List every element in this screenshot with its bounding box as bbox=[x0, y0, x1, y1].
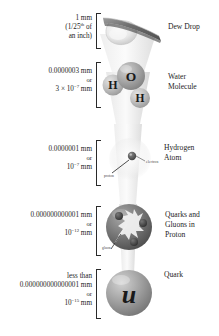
level-label-quark: Quark bbox=[164, 270, 183, 280]
size-annotation-quark: less than 0.000000000000001 mm or 10−15 … bbox=[0, 272, 92, 308]
size-annotation-quarks-gluons: 0.000000000001 mm or 10−12 mm bbox=[0, 211, 92, 238]
atom-symbol-o: O bbox=[126, 69, 137, 84]
size-line: 0.000000000000001 mm bbox=[0, 281, 92, 290]
size-annotation-water-molecule: 0.0000003 mm or 3 × 10−7 mm bbox=[4, 67, 92, 94]
quark-illustration: u bbox=[104, 268, 160, 320]
atom-symbol-h-left: H bbox=[108, 78, 118, 92]
label-line: Quarks and bbox=[165, 210, 200, 220]
size-line: an inch) bbox=[10, 32, 92, 41]
size-line: less than bbox=[0, 272, 92, 281]
water-molecule-illustration: H H O bbox=[101, 58, 163, 108]
size-line: 10−12 mm bbox=[0, 229, 92, 238]
size-line: 0.000000000001 mm bbox=[0, 211, 92, 220]
electron-callout-label: electron bbox=[146, 160, 158, 164]
label-line: Quark bbox=[164, 270, 183, 280]
callout-text: gluon bbox=[102, 246, 111, 250]
level-label-water-molecule: Water Molecule bbox=[168, 72, 197, 92]
label-line: Gluons in bbox=[165, 220, 200, 230]
dew-drop-illustration bbox=[101, 10, 165, 52]
label-line: Water bbox=[168, 72, 197, 82]
bracket-quark bbox=[96, 269, 101, 319]
level-label-dew-drop: Dew Drop bbox=[168, 22, 200, 32]
label-line: Hydrogen bbox=[164, 143, 194, 153]
level-label-quarks-gluons: Quarks and Gluons in Proton bbox=[165, 210, 200, 240]
size-annotation-dew-drop: 1 mm (1/25th of an inch) bbox=[10, 14, 92, 42]
size-line: (1/25th of bbox=[10, 23, 92, 32]
gluon-callout-label: gluon bbox=[102, 246, 111, 250]
size-line: 10−7 mm bbox=[6, 163, 92, 172]
label-line: Atom bbox=[164, 153, 194, 163]
label-line: Dew Drop bbox=[168, 22, 200, 32]
size-line: 0.0000003 mm bbox=[4, 67, 92, 76]
size-annotation-hydrogen-atom: 0.0000001 mm or 10−7 mm bbox=[6, 145, 92, 172]
proton-quarks-illustration bbox=[103, 203, 161, 257]
level-label-hydrogen-atom: Hydrogen Atom bbox=[164, 143, 194, 163]
size-line: 3 × 10−7 mm bbox=[4, 85, 92, 94]
bracket-quarks-gluons bbox=[96, 206, 101, 256]
label-line: Molecule bbox=[168, 82, 197, 92]
size-line: or bbox=[6, 154, 92, 162]
quark-flavor-glyph: u bbox=[122, 280, 136, 309]
scale-of-matter-diagram: 1 mm (1/25th of an inch) bbox=[0, 0, 219, 336]
proton-callout-label: proton bbox=[104, 174, 114, 178]
size-line: 0.0000001 mm bbox=[6, 145, 92, 154]
callout-text: proton bbox=[104, 174, 114, 178]
label-line: Proton bbox=[165, 230, 200, 240]
atom-symbol-h-right: H bbox=[136, 92, 145, 104]
callout-text: electron bbox=[146, 160, 158, 164]
size-line: 10−15 mm bbox=[0, 299, 92, 308]
